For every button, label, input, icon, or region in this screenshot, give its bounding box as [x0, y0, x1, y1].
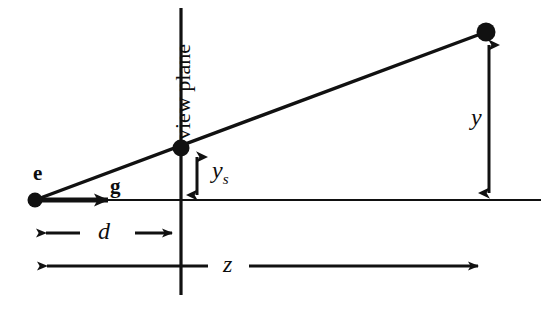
y-world-label: y [471, 105, 482, 129]
perspective-projection-figure: e g view plane ys y d z [0, 0, 555, 314]
view-plane-label: view plane [172, 44, 194, 140]
view-ray-line [35, 32, 486, 200]
y-screen-label-subscript: s [223, 171, 229, 187]
d-distance-label: d [98, 219, 110, 243]
gaze-vector-label: g [110, 176, 121, 197]
z-distance-label: z [223, 252, 232, 276]
world-point-dot [477, 23, 496, 42]
y-screen-label: ys [212, 158, 229, 187]
y-screen-label-base: y [212, 157, 223, 183]
eye-point-label: e [33, 163, 42, 184]
figure-canvas [0, 0, 555, 314]
image-point-dot [173, 140, 190, 157]
eye-point-dot [28, 193, 43, 208]
